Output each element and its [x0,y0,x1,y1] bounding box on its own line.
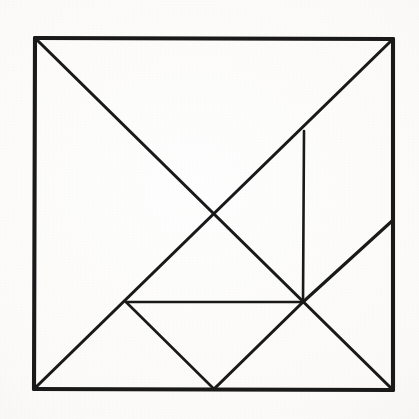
vertical-right-inner [303,131,304,302]
tangram-diagram-canvas [0,0,419,419]
tangram-figure [0,0,419,419]
outline-left [34,38,35,389]
outline-top [35,38,393,39]
